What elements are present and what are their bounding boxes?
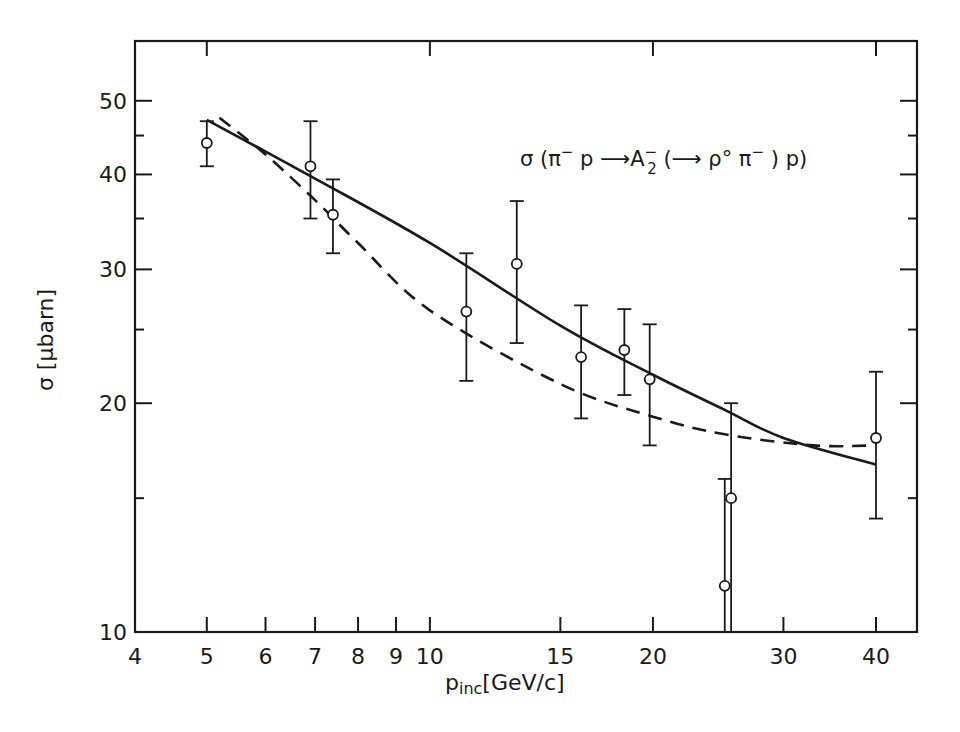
open-circle-marker: [619, 345, 629, 355]
data-point: [724, 403, 738, 632]
y-tick-label: 20: [99, 391, 127, 416]
x-tick-label: 15: [546, 644, 574, 669]
y-axis-tick-labels: 1020304050: [99, 89, 127, 645]
plot-frame: [135, 41, 917, 632]
reaction-annotation: σ (π− p ⟶A−2 (⟶ ρ° π− ) p): [520, 143, 807, 178]
y-tick-label: 50: [99, 89, 127, 114]
x-tick-label: 4: [128, 644, 142, 669]
open-circle-marker: [871, 433, 881, 443]
open-circle-marker: [645, 374, 655, 384]
open-circle-marker: [202, 138, 212, 148]
open-circle-marker: [328, 210, 338, 220]
open-circle-marker: [305, 161, 315, 171]
data-point: [303, 121, 317, 218]
data-points: [200, 121, 883, 632]
x-tick-label: 7: [308, 644, 322, 669]
open-circle-marker: [512, 259, 522, 269]
x-tick-label: 6: [258, 644, 272, 669]
plot-border: [135, 41, 917, 632]
cross-section-chart: 4567891015203040 1020304050 σ (π− p ⟶A−2…: [0, 0, 960, 732]
data-point: [643, 324, 657, 445]
x-axis-title: pinc[GeV/c]: [445, 670, 565, 698]
x-tick-label: 8: [351, 644, 365, 669]
x-axis-ticks: [207, 41, 876, 632]
y-tick-label: 30: [99, 257, 127, 282]
x-tick-label: 30: [769, 644, 797, 669]
x-tick-label: 5: [200, 644, 214, 669]
data-point: [869, 372, 883, 519]
data-point: [510, 201, 524, 343]
open-circle-marker: [461, 307, 471, 317]
data-point: [200, 121, 214, 166]
solid-fit-curve: [207, 120, 876, 465]
x-axis-tick-labels: 4567891015203040: [128, 644, 890, 669]
y-tick-label: 10: [99, 620, 127, 645]
open-circle-marker: [720, 581, 730, 591]
x-tick-label: 9: [389, 644, 403, 669]
x-tick-label: 20: [639, 644, 667, 669]
data-point: [617, 309, 631, 395]
data-point: [459, 253, 473, 381]
y-tick-label: 40: [99, 162, 127, 187]
open-circle-marker: [726, 493, 736, 503]
x-tick-label: 40: [862, 644, 890, 669]
x-tick-label: 10: [416, 644, 444, 669]
data-point: [574, 305, 588, 418]
open-circle-marker: [576, 352, 586, 362]
y-axis-title: σ [μbarn]: [33, 289, 58, 391]
